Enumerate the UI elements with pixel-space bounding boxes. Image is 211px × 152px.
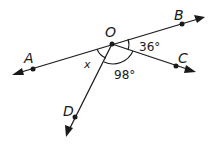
label-B: B xyxy=(174,7,184,23)
arrowhead-A-icon xyxy=(12,68,24,75)
arrowhead-D-icon xyxy=(65,125,73,137)
angle-diagram: O A B C D x 36° 98° xyxy=(0,0,211,152)
angle-label-98: 98° xyxy=(114,68,135,82)
label-D: D xyxy=(63,103,74,119)
arrowhead-C-icon xyxy=(184,65,196,73)
arrowhead-B-icon xyxy=(194,15,205,23)
label-O: O xyxy=(105,24,116,40)
point-A-dot xyxy=(31,67,36,72)
angle-label-x: x xyxy=(83,58,91,71)
arc-COD xyxy=(104,51,133,64)
vertex-O-dot xyxy=(110,42,115,47)
angle-label-36: 36° xyxy=(139,40,160,54)
label-C: C xyxy=(178,50,188,66)
arc-AOD xyxy=(97,49,106,58)
arc-BOC xyxy=(128,39,129,50)
label-A: A xyxy=(23,50,34,66)
